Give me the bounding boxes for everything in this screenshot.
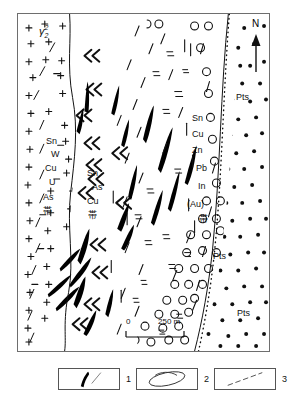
label-granite-w: W <box>51 150 60 159</box>
label-granite-as: As <box>43 193 54 202</box>
north-label: N <box>252 18 259 29</box>
dashed-line-icon <box>215 369 275 389</box>
label-outer-au: (Au) <box>187 200 204 209</box>
legend-box-ellipse <box>136 368 198 390</box>
north-arrow-icon <box>246 32 266 72</box>
label-outer-zone-suffix: 帯 <box>199 215 208 224</box>
legend-number-2: 2 <box>204 374 209 384</box>
label-granite-zone-suffix: 帯 <box>43 207 52 216</box>
pts-filled-dot-pattern <box>206 24 268 348</box>
figure-root: γ22 Sn W Cu U As 帯 Sn As Cu 帯 Sn Cu Zn P… <box>0 0 295 407</box>
legend-number-3: 3 <box>282 374 287 384</box>
legend: 1 2 3 <box>0 362 295 407</box>
label-granite-sn: Sn <box>46 137 57 146</box>
legend-box-dashed <box>214 368 276 390</box>
legend-number-1: 1 <box>126 374 131 384</box>
scalebar-max-label: 250 m <box>158 317 180 326</box>
map-frame: γ22 Sn W Cu U As 帯 Sn As Cu 帯 Sn Cu Zn P… <box>17 13 270 352</box>
legend-box-vein <box>58 368 120 390</box>
scalebar-zero-label: 0 <box>126 317 130 326</box>
label-outer-in: In <box>198 182 206 191</box>
label-pts-middle: Pts <box>213 252 226 261</box>
label-outer-zn: Zn <box>192 146 203 155</box>
label-outer-sn: Sn <box>192 114 203 123</box>
label-inner-as: As <box>92 183 103 192</box>
scalebar-graphic <box>124 330 188 340</box>
label-pts-upper: Pts <box>236 93 249 102</box>
label-granite-u: U <box>49 178 56 187</box>
ellipse-outline-icon <box>137 369 197 389</box>
label-granite-cu: Cu <box>45 164 57 173</box>
label-inner-sn: Sn <box>87 169 98 178</box>
ore-vein-icon <box>59 369 119 389</box>
label-inner-cu: Cu <box>87 197 99 206</box>
map-geology-layer <box>18 14 269 351</box>
label-pts-lower: Pts <box>237 309 250 318</box>
label-outer-cu: Cu <box>192 130 204 139</box>
label-outer-pb: Pb <box>196 164 207 173</box>
granite-rock-symbol: γ22 <box>39 23 48 40</box>
label-inner-zone-suffix: 帯 <box>88 211 97 220</box>
